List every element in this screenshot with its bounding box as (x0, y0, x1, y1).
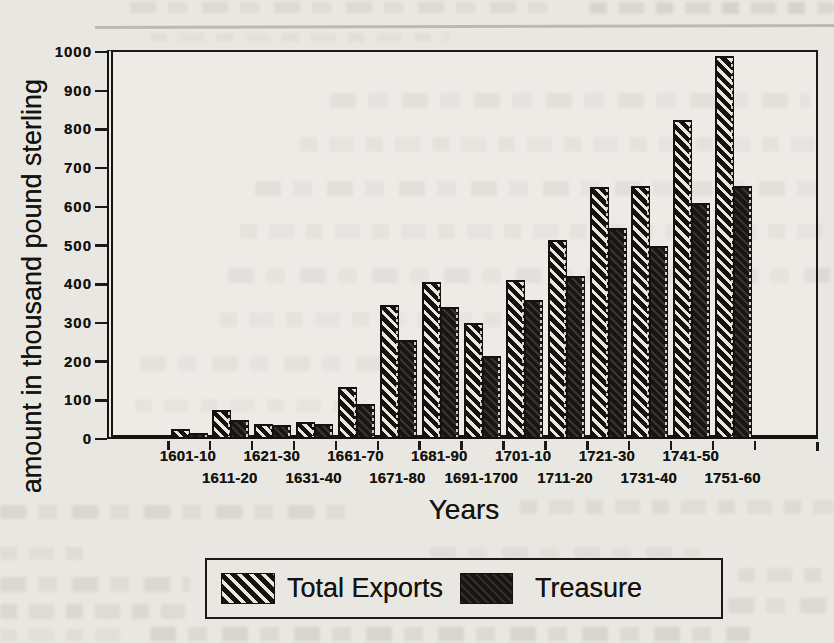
x-axis-tick-label: 1711-20 (519, 469, 611, 487)
scan-artifact-line (95, 24, 834, 28)
x-axis-tick (293, 441, 296, 450)
bar-total-exports-1601-10 (171, 429, 190, 439)
bar-total-exports-1661-70 (338, 387, 357, 439)
bar-total-exports-1611-20 (212, 410, 231, 439)
bleed-text-streak (130, 2, 560, 13)
bar-total-exports-1741-50 (673, 120, 692, 439)
bar-total-exports-1721-30 (590, 187, 609, 439)
legend-label-treasure: Treasure (535, 571, 642, 605)
bar-total-exports-1621-30 (254, 424, 273, 439)
bar-total-exports-1631-40 (296, 422, 315, 439)
bleed-text-streak (0, 505, 350, 519)
y-axis-tick (95, 128, 107, 131)
x-axis-tick-label: 1691-1700 (435, 469, 527, 487)
x-axis-tick (377, 441, 380, 450)
legend-label-total-exports: Total Exports (287, 571, 443, 605)
x-axis-tick (712, 441, 715, 450)
x-axis-tick (544, 441, 547, 450)
legend-swatch-total-exports-hatch (221, 573, 275, 604)
y-axis-tick (95, 438, 107, 441)
y-axis-tick (95, 322, 107, 325)
bar-treasure-1621-30 (272, 425, 291, 439)
bar-total-exports-1691-1700 (464, 323, 483, 439)
y-axis-tick (95, 244, 107, 247)
y-axis-tick-label: 500 (34, 237, 92, 255)
x-axis-tick (209, 441, 212, 450)
y-axis-tick (95, 283, 107, 286)
y-axis-tick-label: 700 (34, 159, 92, 177)
bleed-text-streak (738, 568, 834, 582)
x-axis-tick-label: 1731-40 (603, 469, 695, 487)
y-axis-tick-label: 0 (34, 430, 92, 448)
y-axis-tick-label: 400 (34, 275, 92, 293)
y-axis-tick (95, 167, 107, 170)
y-axis-tick-label: 900 (34, 82, 92, 100)
x-axis-title: Years (369, 494, 559, 526)
y-axis-tick-label: 300 (34, 314, 92, 332)
bleed-text-streak (0, 629, 130, 641)
x-axis-tick-label: 1611-20 (184, 469, 276, 487)
bleed-text-streak (590, 2, 834, 14)
bleed-text-streak (520, 500, 834, 514)
x-axis-tick-label: 1671-80 (351, 469, 443, 487)
bar-total-exports-1701-10 (506, 280, 525, 439)
bleed-text-streak (150, 627, 750, 641)
y-axis-tick-label: 1000 (34, 43, 92, 61)
plot-area (107, 50, 818, 439)
bar-treasure-1721-30 (608, 228, 627, 439)
bar-treasure-1681-90 (440, 307, 459, 439)
x-axis-tick-label: 1631-40 (268, 469, 360, 487)
x-axis-tick-label: 1661-70 (310, 447, 402, 465)
bar-total-exports-1711-20 (548, 240, 567, 439)
x-axis-tick (816, 442, 819, 451)
bar-treasure-1661-70 (356, 404, 375, 439)
bleed-text-streak (0, 547, 95, 560)
bar-total-exports-1751-60 (715, 56, 734, 439)
scanned-book-page: amount in thousand pound sterling Years … (0, 0, 834, 643)
x-axis-tick (628, 441, 631, 450)
x-axis-tick (460, 441, 463, 450)
x-axis-tick-label: 1621-30 (226, 447, 318, 465)
bar-treasure-1711-20 (566, 276, 585, 439)
y-axis-tick (95, 51, 107, 54)
y-axis-tick-label: 600 (34, 198, 92, 216)
bar-total-exports-1681-90 (422, 282, 441, 439)
bar-treasure-1671-80 (398, 340, 417, 439)
x-axis-tick-label: 1681-90 (393, 447, 485, 465)
y-axis-tick-label: 200 (34, 353, 92, 371)
bleed-text-streak (728, 598, 834, 613)
bar-total-exports-1671-80 (380, 305, 399, 439)
bar-treasure-1751-60 (733, 186, 752, 439)
x-axis-tick-label: 1741-50 (645, 447, 737, 465)
y-axis-tick (95, 206, 107, 209)
bar-treasure-1601-10 (189, 433, 208, 439)
bar-treasure-1631-40 (314, 424, 333, 439)
y-axis-tick (95, 90, 107, 93)
y-axis-tick (95, 360, 107, 363)
bleed-text-streak (0, 577, 190, 592)
bleed-text-streak (0, 604, 185, 619)
bleed-text-streak (150, 33, 450, 42)
bar-treasure-1691-1700 (482, 356, 501, 439)
bar-treasure-1701-10 (524, 300, 543, 439)
y-axis-tick-label: 800 (34, 120, 92, 138)
bar-treasure-1611-20 (230, 420, 249, 439)
x-axis-tick-label: 1751-60 (687, 469, 779, 487)
y-axis-tick-label: 100 (34, 391, 92, 409)
bar-treasure-1741-50 (691, 203, 710, 439)
bar-total-exports-1731-40 (631, 186, 650, 439)
y-axis-tick (95, 399, 107, 402)
x-axis-tick-label: 1721-30 (561, 447, 653, 465)
legend-swatch-treasure-solid (460, 573, 513, 604)
x-axis-tick-label: 1601-10 (142, 447, 234, 465)
legend: Total Exports Treasure (205, 558, 723, 619)
bar-treasure-1731-40 (649, 246, 668, 440)
x-axis-tick (754, 441, 757, 450)
x-axis-tick-label: 1701-10 (477, 447, 569, 465)
